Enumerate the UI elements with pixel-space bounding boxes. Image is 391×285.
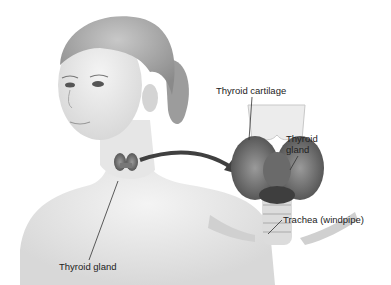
thyroid-diagram: Thyroid cartilage Thyroid gland Trachea … — [0, 0, 391, 285]
label-thyroid-gland-right-2: gland — [286, 144, 309, 155]
illustration — [0, 0, 391, 285]
label-thyroid-gland-bottom: Thyroid gland — [59, 261, 117, 272]
label-thyroid-gland-right-1: Thyroid — [286, 133, 318, 144]
eye-right — [92, 81, 104, 87]
ear — [142, 84, 158, 112]
label-thyroid-cartilage: Thyroid cartilage — [216, 85, 286, 96]
eye-left — [65, 83, 75, 88]
label-trachea: Trachea (windpipe) — [283, 214, 364, 225]
